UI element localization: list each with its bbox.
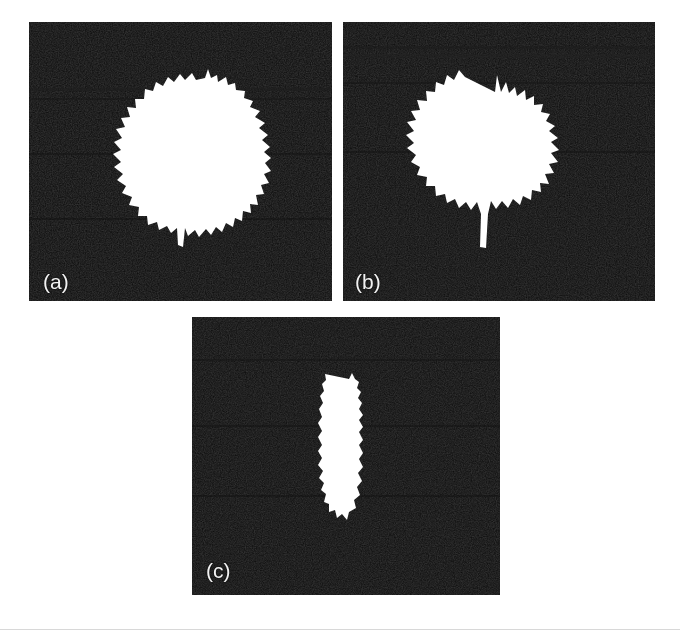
panel-b-grain bbox=[343, 22, 655, 301]
panel-c-object-layer bbox=[192, 317, 500, 595]
panel-a-grain bbox=[29, 22, 332, 301]
panel-a-scanlines bbox=[29, 22, 332, 301]
panel-c-scanlines bbox=[192, 317, 500, 595]
bottom-rule-divider bbox=[0, 629, 680, 630]
elongated-vertical-blob-small-icon bbox=[192, 317, 500, 595]
figure-root: (a) (b) bbox=[0, 0, 680, 635]
panel-b-scanlines bbox=[343, 22, 655, 301]
panel-a-label: (a) bbox=[43, 271, 69, 292]
panel-b-object-layer bbox=[343, 22, 655, 301]
figure-panel-c: (c) bbox=[192, 317, 500, 595]
spiky-round-blob-medium-icon bbox=[343, 22, 655, 301]
panel-b-label: (b) bbox=[355, 271, 381, 292]
figure-panel-a: (a) bbox=[29, 22, 332, 301]
panel-c-label: (c) bbox=[206, 560, 231, 581]
spiky-round-blob-large-icon bbox=[29, 22, 332, 301]
panel-c-grain bbox=[192, 317, 500, 595]
figure-panel-b: (b) bbox=[343, 22, 655, 301]
panel-a-object-layer bbox=[29, 22, 332, 301]
